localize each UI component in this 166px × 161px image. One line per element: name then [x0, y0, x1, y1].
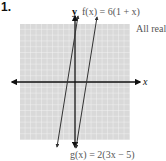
f-equation-label: f(x) = 6(1 + x) — [82, 6, 140, 17]
y-axis-label: y — [72, 6, 77, 17]
answer-label: All reals — [136, 23, 166, 34]
g-equation-label: g(x) = 2(3x − 5) — [70, 149, 135, 160]
x-axis-label: x — [143, 76, 147, 87]
